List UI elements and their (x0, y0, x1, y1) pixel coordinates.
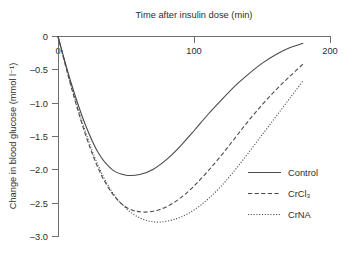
y-tick-label--1-5: –1.5 (30, 132, 48, 142)
legend-item-crna[interactable]: CrNA (248, 210, 312, 220)
series-line-crcl3 (58, 37, 303, 213)
y-tick-label--3-0: –3.0 (30, 232, 48, 242)
x-axis-title: Time after insulin dose (min) (136, 10, 253, 20)
legend-label-crna: CrNA (288, 210, 312, 220)
y-axis-title: Change in blood glucose (mmol l⁻¹) (8, 63, 18, 210)
y-tick-label--2-5: –2.5 (30, 199, 48, 209)
y-axis: 0 –0.5 –1.0 –1.5 –2.0 –2.5 –3.0 Change i… (8, 32, 59, 242)
y-tick-label--0-5: –0.5 (30, 65, 48, 75)
y-tick-label--2-0: –2.0 (30, 165, 48, 175)
legend-label-control: Control (288, 168, 318, 178)
legend-label-crcl3: CrCl₃ (288, 189, 311, 199)
series-line-control (58, 37, 303, 176)
y-tick-label--1-0: –1.0 (30, 99, 48, 109)
legend-item-control[interactable]: Control (248, 168, 318, 178)
legend-item-crcl3[interactable]: CrCl₃ (248, 189, 311, 199)
series-line-crna (58, 37, 303, 223)
x-axis: 0 100 200 Time after insulin dose (min) (55, 10, 337, 56)
y-tick-label-0: 0 (43, 32, 48, 42)
x-tick-label-100: 100 (186, 46, 202, 56)
figure-container: 0 100 200 Time after insulin dose (min) … (0, 0, 362, 258)
x-tick-label-200: 200 (322, 46, 338, 56)
legend: Control CrCl₃ CrNA (248, 168, 318, 220)
series-group (58, 37, 303, 223)
chart-canvas: 0 100 200 Time after insulin dose (min) … (0, 0, 362, 258)
